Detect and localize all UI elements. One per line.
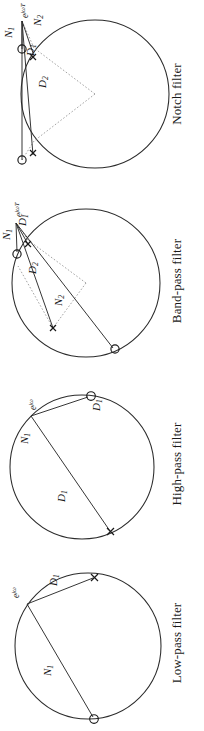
label-N1: N1 xyxy=(0,229,14,241)
notch-caption: Notch filter xyxy=(154,0,200,188)
label-D1: D1 xyxy=(47,574,61,587)
band-pass-caption: Band-pass filter xyxy=(154,188,200,374)
panel-high-pass: ejω N1 D1 D1 High-pass filter xyxy=(0,374,204,554)
notch-diagram: ejωT N1 N2 D1 D2 xyxy=(0,0,152,188)
label-D1: D1 xyxy=(24,44,38,57)
pole-marker-right xyxy=(91,574,98,581)
band-pass-diagram: ejωT N1 N2 D1 D2 xyxy=(0,188,152,374)
high-pass-plot: ejω N1 D1 D1 xyxy=(0,374,152,554)
label-N2: N2 xyxy=(52,295,66,307)
panel-band-pass: ejωT N1 N2 D1 D2 Band-pass filter xyxy=(0,188,204,374)
low-pass-diagram: ejω D1 N1 xyxy=(0,554,152,731)
low-pass-caption-text: Low-pass filter xyxy=(169,602,185,683)
high-pass-caption: High-pass filter xyxy=(154,374,200,554)
notch-caption-text: Notch filter xyxy=(169,63,185,124)
vector-D1 xyxy=(31,416,110,531)
label-D1-alt: D1 xyxy=(90,399,104,412)
pole-marker-right xyxy=(50,325,56,331)
filter-pole-zero-figure: ejωT N1 N2 D1 D2 Notch filter xyxy=(0,0,204,731)
pole-marker-left xyxy=(25,241,31,247)
vector-D1 xyxy=(27,578,93,604)
eval-point-label: ejωT xyxy=(19,2,30,18)
vector-N1 xyxy=(31,397,88,416)
band-pass-caption-text: Band-pass filter xyxy=(169,239,185,323)
construction-radius-2 xyxy=(34,94,95,141)
label-D2: D2 xyxy=(26,262,40,275)
vector-N1 xyxy=(16,223,17,252)
high-pass-caption-text: High-pass filter xyxy=(169,423,185,506)
label-D1: D1 xyxy=(55,490,69,503)
vector-D2 xyxy=(16,223,53,328)
label-D2: D2 xyxy=(36,76,50,89)
label-N1: N1 xyxy=(2,27,16,39)
zero-marker-bottom xyxy=(111,345,119,353)
panel-low-pass: ejω D1 N1 Low-pass filter xyxy=(0,554,204,731)
panel-notch: ejωT N1 N2 D1 D2 Notch filter xyxy=(0,0,204,188)
unit-circle xyxy=(15,573,161,719)
eval-point-label: ejω xyxy=(27,399,38,410)
label-N1: N1 xyxy=(41,665,55,677)
band-pass-plot: ejωT N1 N2 D1 D2 xyxy=(0,188,152,374)
low-pass-plot: ejω D1 N1 xyxy=(0,554,152,731)
notch-plot: ejωT N1 N2 D1 D2 xyxy=(0,0,152,188)
high-pass-diagram: ejω N1 D1 D1 xyxy=(0,374,152,554)
low-pass-caption: Low-pass filter xyxy=(154,554,200,731)
vector-N1 xyxy=(27,604,93,717)
label-N2: N2 xyxy=(31,15,45,27)
eval-point-label: ejω xyxy=(10,587,21,598)
label-N1: N1 xyxy=(18,433,32,445)
construction-leg-2 xyxy=(18,266,53,328)
